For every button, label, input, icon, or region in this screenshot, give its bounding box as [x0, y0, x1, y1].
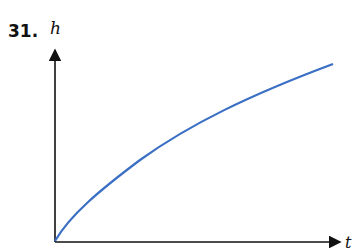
curve [55, 64, 333, 241]
chart [0, 0, 360, 250]
